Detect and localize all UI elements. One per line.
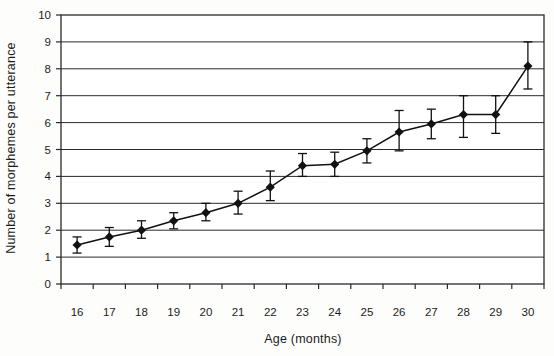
y-axis-title: Number of morphemes per utterance (4, 42, 18, 254)
y-tick-label: 7 (45, 90, 51, 102)
x-tick-label: 16 (71, 306, 84, 318)
x-tick-label: 23 (296, 306, 309, 318)
y-tick-label: 6 (45, 117, 51, 129)
x-axis-title: Age (months) (264, 332, 341, 346)
line-chart-canvas: 0123456789101617181920212223242526272829… (0, 0, 554, 356)
x-tick-label: 24 (328, 306, 341, 318)
x-tick-label: 19 (167, 306, 180, 318)
x-tick-label: 20 (200, 306, 213, 318)
y-tick-label: 5 (45, 144, 51, 156)
y-tick-label: 1 (45, 251, 51, 263)
y-tick-label: 8 (45, 63, 51, 75)
x-tick-label: 29 (489, 306, 502, 318)
x-tick-label: 17 (103, 306, 116, 318)
x-tick-label: 30 (522, 306, 535, 318)
x-tick-label: 25 (361, 306, 374, 318)
x-tick-label: 18 (135, 306, 148, 318)
y-tick-label: 9 (45, 36, 51, 48)
y-tick-label: 0 (45, 278, 51, 290)
y-tick-label: 3 (45, 197, 51, 209)
y-tick-label: 2 (45, 224, 51, 236)
x-tick-label: 27 (425, 306, 438, 318)
x-tick-label: 22 (264, 306, 277, 318)
x-tick-label: 28 (457, 306, 470, 318)
y-tick-label: 4 (45, 170, 52, 182)
x-tick-label: 21 (232, 306, 245, 318)
y-tick-label: 10 (38, 9, 51, 21)
x-tick-label: 26 (393, 306, 406, 318)
line-chart-figure: 0123456789101617181920212223242526272829… (0, 0, 554, 356)
